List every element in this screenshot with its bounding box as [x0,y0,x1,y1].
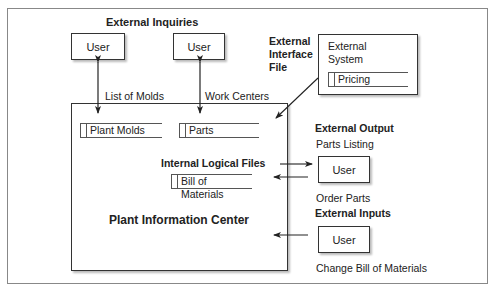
connector-arrows [0,0,494,292]
pricing-arrow [276,78,318,118]
